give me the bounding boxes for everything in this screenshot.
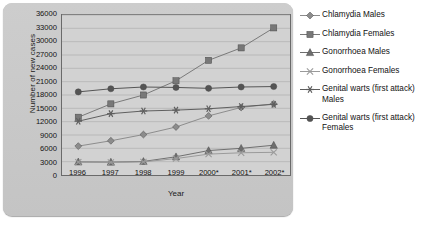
data-point-circle: [307, 115, 313, 121]
y-tick-label: 15000: [13, 105, 57, 113]
chart-legend: Chlamydia MalesChlamydia FemalesGonorrho…: [300, 10, 421, 141]
series-2: [75, 141, 278, 165]
legend-item[interactable]: Chlamydia Females: [300, 29, 421, 40]
data-point-diamond: [75, 143, 82, 150]
x-axis-ticks: 19961997199819992000*2001*2002*: [3, 168, 293, 180]
y-tick-label: 9000: [13, 132, 57, 140]
y-tick-label: 33000: [13, 24, 57, 32]
data-point-square: [108, 101, 114, 107]
data-point-circle: [238, 84, 244, 90]
data-point-asterisk: [140, 108, 148, 115]
y-tick-label: 3000: [13, 159, 57, 167]
data-point-triangle: [270, 141, 277, 148]
y-tick-label: 30000: [13, 37, 57, 45]
x-tick-label: 2002*: [255, 168, 295, 177]
data-point-asterisk: [205, 106, 213, 113]
data-point-square: [140, 92, 146, 98]
y-tick-label: 27000: [13, 51, 57, 59]
legend-marker-circle-icon: [300, 113, 320, 124]
legend-label: Genital warts (first attack) Females: [322, 113, 415, 134]
legend-label: Gonorrhoea Females: [322, 66, 399, 77]
x-axis-title: Year: [61, 189, 291, 198]
data-point-square: [205, 57, 211, 63]
y-tick-label: 18000: [13, 91, 57, 99]
chart-figure: Number of new cases 03000600090001200015…: [0, 0, 421, 230]
y-tick-label: 12000: [13, 118, 57, 126]
y-tick-label: 36000: [13, 10, 57, 18]
legend-label: Chlamydia Males: [322, 10, 385, 21]
legend-item[interactable]: Gonorrhoea Females: [300, 66, 421, 77]
y-tick-label: 6000: [13, 145, 57, 153]
legend-label: Gonorrhoea Males: [322, 47, 390, 58]
data-point-square: [238, 45, 244, 51]
data-point-circle: [271, 83, 277, 89]
data-point-circle: [205, 85, 211, 91]
legend-item[interactable]: Gonorrhoea Males: [300, 47, 421, 58]
data-point-diamond: [205, 112, 212, 119]
data-point-circle: [108, 86, 114, 92]
legend-marker-triangle-icon: [300, 47, 320, 58]
legend-marker-diamond-icon: [300, 10, 320, 21]
chart-plate: Number of new cases 03000600090001200015…: [3, 3, 293, 216]
plot-area: [61, 14, 291, 176]
data-point-circle: [173, 84, 179, 90]
series-4: [75, 101, 278, 124]
data-point-square: [75, 114, 81, 120]
data-point-circle: [140, 84, 146, 90]
legend-label: Chlamydia Females: [322, 29, 394, 40]
data-point-circle: [75, 89, 81, 95]
legend-marker-square-icon: [300, 29, 320, 40]
data-point-diamond: [107, 137, 114, 144]
data-point-diamond: [140, 131, 147, 138]
y-axis-ticks: 0300060009000120001500018000210002400027…: [11, 3, 57, 216]
legend-label: Genital warts (first attack) Males: [322, 84, 415, 105]
series-5: [75, 83, 277, 94]
data-point-square: [271, 25, 277, 31]
data-point-asterisk: [107, 110, 115, 117]
legend-item[interactable]: Genital warts (first attack) Females: [300, 113, 421, 134]
data-point-diamond: [173, 124, 180, 131]
y-tick-label: 21000: [13, 78, 57, 86]
data-layer: [62, 15, 290, 175]
data-point-square: [307, 31, 313, 37]
data-point-diamond: [307, 12, 314, 19]
legend-marker-asterisk-icon: [300, 84, 320, 95]
legend-item[interactable]: Chlamydia Males: [300, 10, 421, 21]
data-point-square: [173, 78, 179, 84]
legend-item[interactable]: Genital warts (first attack) Males: [300, 84, 421, 105]
series-0: [75, 100, 277, 149]
data-point-asterisk: [306, 86, 314, 93]
y-tick-label: 24000: [13, 64, 57, 72]
data-point-asterisk: [172, 107, 180, 114]
legend-marker-x-icon: [300, 66, 320, 77]
